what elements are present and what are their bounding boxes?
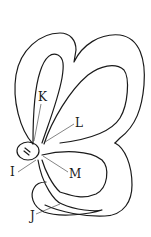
label-j: J	[28, 209, 35, 223]
label-m: M	[69, 167, 81, 181]
leader-m	[43, 156, 68, 172]
leader-l	[45, 124, 74, 142]
butterfly-diagram: K L I M J	[0, 0, 151, 237]
hindwing-lower-j	[32, 160, 102, 215]
label-k: K	[38, 90, 48, 104]
forewing-inner-l	[44, 66, 127, 144]
label-l: L	[75, 116, 83, 130]
leader-i	[18, 160, 36, 172]
body-mark	[24, 148, 30, 155]
label-i: I	[10, 165, 15, 179]
leader-k	[34, 104, 41, 141]
